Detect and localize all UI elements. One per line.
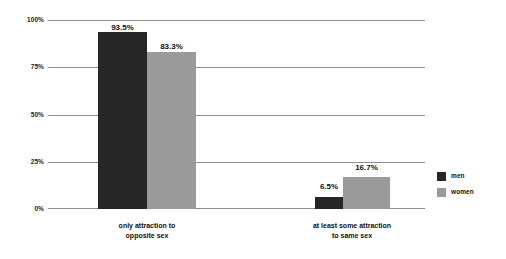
gridline-100 <box>48 20 425 21</box>
bar-chart: 100% 75% 50% 25% 0% 93.5% 83.3% 6.5% 16.… <box>0 0 506 259</box>
bar-men-only-attraction-opposite-sex <box>98 32 147 209</box>
category-label-some-attraction-same-sex: at least some attraction to same sex <box>313 221 391 241</box>
bar-men-some-attraction-same-sex <box>315 197 343 209</box>
category-label-only-attraction-opposite-sex: only attraction to opposite sex <box>119 221 176 241</box>
y-tick-label-50: 50% <box>10 111 44 118</box>
y-tick-label-75: 75% <box>10 64 44 71</box>
legend-label-men: men <box>451 173 465 180</box>
y-tick-label-25: 25% <box>10 159 44 166</box>
bar-value-label-women-2: 16.7% <box>355 164 378 172</box>
y-tick-label-100: 100% <box>10 17 44 24</box>
y-tick-label-0: 0% <box>10 206 44 213</box>
bar-value-label-men-2: 6.5% <box>320 183 338 191</box>
legend-swatch-women-icon <box>437 188 446 197</box>
legend-swatch-men-icon <box>437 172 446 181</box>
legend: men women <box>437 172 501 204</box>
bar-women-only-attraction-opposite-sex <box>147 52 196 209</box>
plot-area: 93.5% 83.3% 6.5% 16.7% <box>48 20 425 209</box>
legend-item-men: men <box>437 172 501 181</box>
bar-women-some-attraction-same-sex <box>343 177 390 209</box>
y-axis: 100% 75% 50% 25% 0% <box>0 20 44 209</box>
bar-value-label-women-1: 83.3% <box>160 43 183 51</box>
bar-value-label-men-1: 93.5% <box>111 24 134 32</box>
legend-label-women: women <box>451 189 474 196</box>
legend-item-women: women <box>437 188 501 197</box>
